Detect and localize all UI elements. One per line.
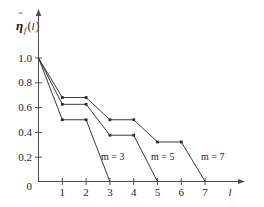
- label-m5: m = 5: [151, 151, 174, 162]
- data-point-marker: [61, 103, 64, 106]
- x-tick-label-5: 5: [155, 186, 161, 198]
- y-axis-label: ˆ η f ( l ): [16, 10, 40, 35]
- data-point-marker: [132, 118, 135, 121]
- y-tick-label-0-8: 0.8: [18, 76, 32, 88]
- data-point-marker: [61, 118, 64, 121]
- data-point-marker: [85, 103, 88, 106]
- figure-container: ˆ η f ( l ) 1.0 0.8 0.6: [0, 0, 264, 207]
- y-axis-label-argument: l: [32, 20, 35, 32]
- data-point-marker: [109, 118, 112, 121]
- x-tick-label-7: 7: [202, 186, 208, 198]
- x-axis-arrowhead: [238, 179, 245, 184]
- y-tick-label-0-2: 0.2: [18, 151, 32, 163]
- y-tick-label-0-6: 0.6: [18, 101, 32, 113]
- series-annotations: m = 3 m = 5 m = 7: [101, 151, 224, 162]
- y-axis-tick-labels: 1.0 0.8 0.6 0.4 0.2 0: [18, 52, 32, 193]
- label-m3: m = 3: [101, 151, 124, 162]
- x-tick-label-6: 6: [179, 186, 185, 198]
- data-point-marker: [85, 96, 88, 99]
- y-axis-label-eta: η: [16, 18, 23, 33]
- x-axis-label: l: [228, 186, 231, 198]
- data-point-marker: [132, 134, 135, 137]
- x-tick-label-4: 4: [131, 186, 137, 198]
- x-tick-label-3: 3: [107, 186, 113, 198]
- data-point-marker: [61, 96, 64, 99]
- eta-hat-step-chart: ˆ η f ( l ) 1.0 0.8 0.6: [0, 0, 264, 207]
- x-tick-label-1: 1: [60, 186, 66, 198]
- data-point-marker: [109, 134, 112, 137]
- y-axis-arrowhead: [36, 9, 42, 16]
- y-tick-label-1-0: 1.0: [18, 52, 32, 64]
- x-axis-tick-labels: 1 2 3 4 5 6 7 l: [60, 186, 232, 198]
- y-tick-label-origin: 0: [27, 180, 33, 192]
- y-tick-label-0-4: 0.4: [18, 126, 32, 138]
- data-point-marker: [180, 141, 183, 144]
- curve-m5: [39, 58, 158, 182]
- data-point-marker: [156, 141, 159, 144]
- label-m7: m = 7: [201, 151, 224, 162]
- x-tick-label-2: 2: [83, 186, 89, 198]
- data-point-marker: [85, 118, 88, 121]
